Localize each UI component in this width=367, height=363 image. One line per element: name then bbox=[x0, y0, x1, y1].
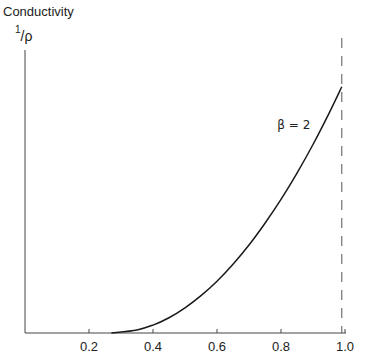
annotations: β = 2 bbox=[277, 118, 310, 132]
x-tick-label: 1.0 bbox=[336, 339, 354, 354]
beta-annotation: β = 2 bbox=[277, 118, 310, 132]
axes bbox=[25, 50, 346, 333]
x-tick-label: 0.6 bbox=[208, 339, 226, 354]
x-tick-label: 0.4 bbox=[144, 339, 162, 354]
x-tick-label: 0.8 bbox=[272, 339, 290, 354]
chart-svg: 0.20.40.60.81.0 β = 2 bbox=[0, 0, 367, 363]
x-tick-label: 0.2 bbox=[80, 339, 98, 354]
